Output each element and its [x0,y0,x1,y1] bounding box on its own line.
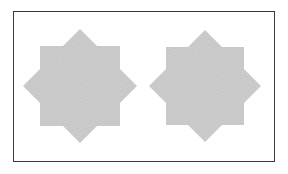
eight-pointed-star-1 [23,29,137,143]
stars-canvas [0,0,288,174]
eight-pointed-star-2 [149,30,261,142]
